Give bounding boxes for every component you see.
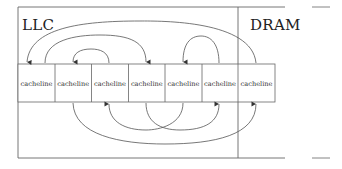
- cacheline-6: cacheline: [204, 80, 236, 88]
- dram-label: DRAM: [250, 16, 301, 34]
- arrow-top-3-to-2: [73, 49, 109, 63]
- cacheline-7: cacheline: [241, 80, 273, 88]
- cacheline-3: cacheline: [94, 80, 126, 88]
- cacheline-2: cacheline: [57, 80, 89, 88]
- dram-continuation-dashes: [312, 7, 330, 158]
- arrow-top-7-to-1: [27, 21, 256, 63]
- cacheline-4: cacheline: [131, 80, 163, 88]
- cacheline-labels: cacheline cacheline cacheline cacheline …: [21, 80, 273, 88]
- llc-label: LLC: [22, 16, 54, 34]
- cacheline-5: cacheline: [168, 80, 200, 88]
- cacheline-1: cacheline: [21, 80, 53, 88]
- arrow-top-6-to-5: [183, 36, 219, 63]
- arrow-bottom-2-to-7: [73, 103, 256, 144]
